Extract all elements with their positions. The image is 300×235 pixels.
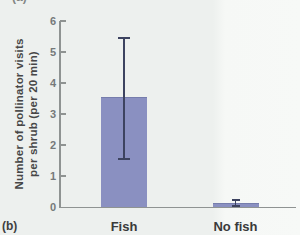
y-tick-mark (60, 113, 66, 115)
error-bar-fish (123, 38, 125, 159)
error-bar-cap-top-fish (118, 37, 130, 39)
y-tick-label: 0 (36, 201, 56, 214)
y-tick-mark (60, 51, 66, 53)
y-axis-title-line1: Number of pollinator visits (12, 19, 26, 209)
figure-panel-b: (a) Number of pollinator visits per shru… (0, 0, 300, 235)
x-axis-line (59, 207, 296, 209)
panel-label-a-partial: (a) (12, 0, 27, 4)
y-tick-mark (60, 175, 66, 177)
y-tick-label: 4 (36, 77, 56, 90)
y-tick-label: 2 (36, 139, 56, 152)
category-label-no-fish: No fish (191, 219, 281, 234)
error-bar-cap-bottom-fish (118, 158, 130, 160)
y-tick-mark (60, 82, 66, 84)
y-tick-mark (60, 20, 66, 22)
y-tick-label: 6 (36, 15, 56, 28)
y-tick-label: 3 (36, 108, 56, 121)
panel-label-b: (b) (2, 219, 17, 233)
error-bar-cap-top-no-fish (232, 199, 240, 201)
y-tick-label: 5 (36, 46, 56, 59)
category-label-fish: Fish (79, 219, 169, 234)
y-tick-label: 1 (36, 170, 56, 183)
y-tick-mark (60, 144, 66, 146)
y-axis-line (59, 21, 61, 208)
